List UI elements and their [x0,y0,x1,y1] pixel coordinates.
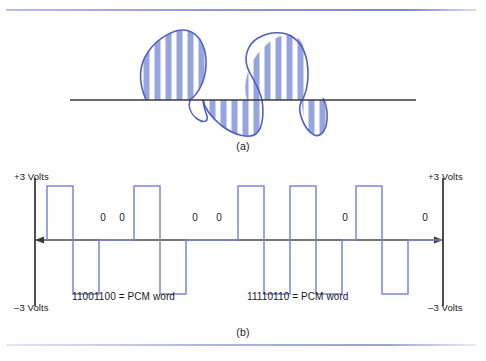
voltage-label-bottom-right: –3 Volts [428,302,463,313]
figure-container: (a) [0,0,486,361]
pulse-bit-10-negative [264,240,290,294]
zero-bit-label: 0 [188,212,202,223]
bottom-divider-rule [6,344,476,346]
caption-panel-a: (a) [0,140,486,152]
pulse-bit-11-positive [290,186,316,240]
waveform-lobe-positive-1 [141,30,206,100]
pulse-bit-5-positive [134,186,160,240]
zero-bit-label: 0 [96,212,110,223]
pulse-bit-2-negative [73,240,99,294]
pulse-bit-14-positive [356,186,382,240]
pulse-bit-9-positive [238,186,264,240]
pulse-bit-15-negative [382,240,408,294]
voltage-label-top-left: +3 Volts [14,171,49,182]
pcm-word-label-2: 11110110 = PCM word [247,291,349,302]
pcm-word-label-1: 11001100 = PCM word [72,291,175,302]
pulse-bit-6-negative [160,240,186,294]
analog-waveform-svg [0,14,486,154]
panel-a-analog-waveform [0,14,486,160]
pulse-bit-1-positive [47,186,73,240]
zero-bit-label: 0 [418,212,432,223]
top-divider-rule [6,9,476,11]
axis-arrow-left [35,237,44,244]
zero-bit-label: 0 [338,212,352,223]
pulse-bit-12-negative [316,240,342,294]
voltage-label-bottom-left: –3 Volts [14,302,49,313]
voltage-label-top-right: +3 Volts [428,171,463,182]
waveform-lobe-positive-2 [245,34,308,100]
zero-bit-label: 0 [115,212,129,223]
zero-bit-label: 0 [212,212,226,223]
waveform-lobe-negative-1 [203,100,263,136]
caption-panel-b: (b) [0,326,486,338]
